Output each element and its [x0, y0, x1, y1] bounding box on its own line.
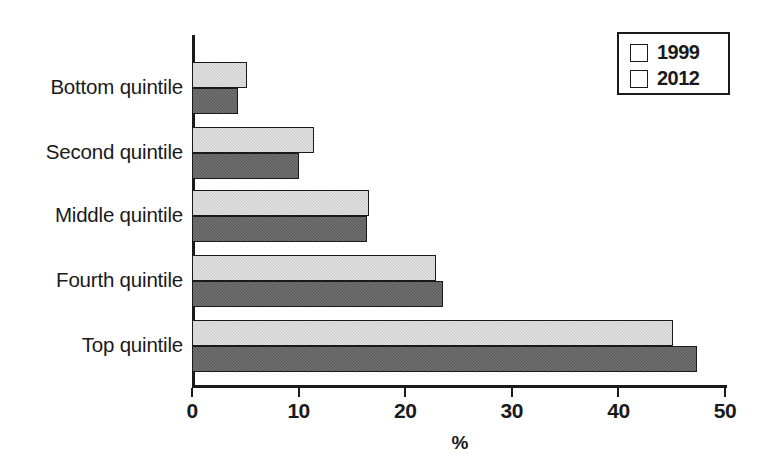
legend: 1999 2012: [617, 32, 730, 95]
category-label: Middle quintile: [55, 203, 183, 227]
x-tick: [511, 388, 513, 397]
bar-2012-second-quintile: [192, 153, 299, 179]
bar-1999-bottom-quintile: [192, 62, 247, 88]
x-tick-label: 20: [394, 399, 416, 423]
x-tick: [724, 388, 726, 397]
x-tick-label: 30: [501, 399, 523, 423]
bar-2012-top-quintile: [192, 346, 697, 372]
bar-2012-bottom-quintile: [192, 88, 238, 114]
bar-2012-fourth-quintile: [192, 281, 443, 307]
x-tick-label: 50: [714, 399, 736, 423]
category-label: Second quintile: [46, 140, 183, 164]
x-axis-line: [192, 385, 727, 388]
bar-2012-middle-quintile: [192, 216, 367, 242]
bar-1999-second-quintile: [192, 127, 314, 153]
x-tick-label: 40: [607, 399, 629, 423]
legend-label: 1999: [657, 41, 700, 64]
x-tick: [617, 388, 619, 397]
light-gray-swatch-icon: [630, 44, 648, 62]
x-tick: [191, 388, 193, 397]
bar-1999-fourth-quintile: [192, 255, 436, 281]
legend-label: 2012: [657, 67, 700, 90]
x-tick: [404, 388, 406, 397]
x-tick-label: 0: [186, 399, 197, 423]
category-label: Top quintile: [82, 333, 183, 357]
legend-entry-2012: 2012: [630, 67, 700, 90]
x-tick: [298, 388, 300, 397]
bar-1999-top-quintile: [192, 320, 673, 346]
category-label: Bottom quintile: [50, 75, 183, 99]
category-label: Fourth quintile: [56, 268, 183, 292]
x-tick-label: 10: [287, 399, 309, 423]
bar-1999-middle-quintile: [192, 190, 369, 216]
dark-gray-swatch-icon: [630, 70, 648, 88]
bar-chart: 01020304050 % Bottom quintileSecond quin…: [0, 0, 768, 470]
x-axis-title: %: [452, 432, 469, 454]
legend-entry-1999: 1999: [630, 41, 700, 64]
